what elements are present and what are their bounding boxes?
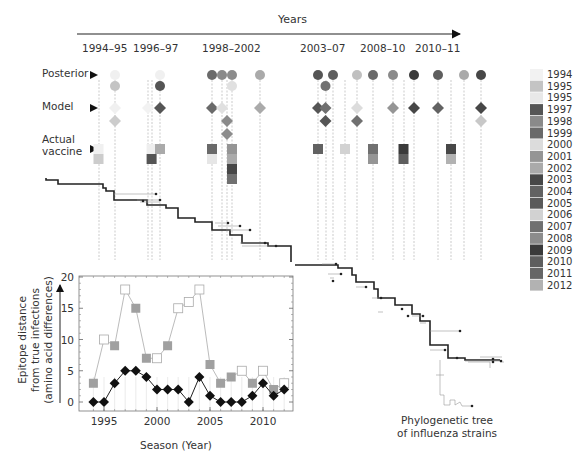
actual-vaccine-marker <box>155 144 165 154</box>
legend-swatch <box>530 256 543 267</box>
legend-label: 2005 <box>547 198 572 209</box>
posterior-marker <box>321 81 331 91</box>
actual-vaccine-marker <box>94 154 104 164</box>
posterior-arrow-icon <box>90 71 98 79</box>
legend-label: 2008 <box>547 233 572 244</box>
posterior-marker <box>352 70 362 80</box>
x-tick-label: 2010 <box>250 415 277 427</box>
y-tick-label: 10 <box>61 334 74 346</box>
actual-vaccine-marker <box>399 144 409 154</box>
period-label: 1998–2002 <box>202 42 261 54</box>
posterior-marker <box>155 81 165 91</box>
legend-label: 2006 <box>547 209 572 220</box>
actual-vaccine-marker <box>147 154 157 164</box>
vaccine-point <box>227 373 236 382</box>
legend-swatch <box>530 116 543 127</box>
legend-label: 2000 <box>547 139 572 150</box>
period-label: 2010–11 <box>415 42 460 54</box>
legend-label: 1999 <box>547 128 572 139</box>
actual-vaccine-marker <box>368 144 378 154</box>
legend-swatch <box>530 245 543 256</box>
vaccine-point <box>142 354 151 363</box>
legend-label: 2011 <box>547 268 572 279</box>
legend-label: 1997 <box>547 104 572 115</box>
model-marker <box>109 115 121 127</box>
posterior-marker <box>227 70 237 80</box>
model-marker <box>320 102 332 114</box>
model-marker <box>254 102 266 114</box>
inset-chart: 051015201995200020052010 Season (Year) E… <box>0 262 295 462</box>
tree-label-line1: Phylogenetic tree <box>401 414 493 426</box>
legend-swatch <box>530 268 543 279</box>
legend-label: 2009 <box>547 245 572 256</box>
legend-label: 1995 <box>547 81 572 92</box>
x-tick-label: 2000 <box>144 415 171 427</box>
actual-vaccine-marker <box>207 154 217 164</box>
posterior-marker <box>409 70 419 80</box>
vaccine-point <box>184 298 193 307</box>
posterior-marker <box>328 70 338 80</box>
posterior-marker <box>368 70 378 80</box>
vaccine-point <box>237 366 246 375</box>
legend-swatch <box>530 139 543 150</box>
legend-swatch <box>530 151 543 162</box>
model-arrow-icon <box>90 104 98 112</box>
ylabel-line: Epitope distance <box>16 296 28 384</box>
vaccine-point <box>259 366 268 375</box>
actual-vaccine-marker <box>94 144 104 154</box>
model-marker <box>216 102 228 114</box>
period-label: 1994–95 <box>82 42 127 54</box>
row-label-model: Model <box>42 100 74 112</box>
actual-vaccine-marker <box>227 144 237 154</box>
period-labels: 1994–95 1996–97 1998–2002 2003–07 2008–1… <box>82 42 460 54</box>
model-marker <box>154 102 166 114</box>
vaccine-point <box>216 379 225 388</box>
actual-vaccine-marker <box>227 164 237 174</box>
legend-label: 1995 <box>547 92 572 103</box>
legend-swatch <box>530 81 543 92</box>
x-tick-label: 1995 <box>91 415 118 427</box>
actual-vaccine-marker <box>207 144 217 154</box>
ylabel-line: from true infections <box>29 288 41 392</box>
legend-swatch <box>530 221 543 232</box>
legend-label: 2001 <box>547 151 572 162</box>
posterior-marker <box>388 70 398 80</box>
vaccine-point <box>131 304 140 313</box>
strain-markers <box>94 70 488 184</box>
vaccine-point <box>248 379 257 388</box>
row-label-actual: Actual <box>42 133 75 145</box>
vaccine-point <box>174 304 183 313</box>
legend-label: 2010 <box>547 256 572 267</box>
y-tick-label: 0 <box>67 396 74 408</box>
year-legend: 1994199519951997199819992000200120022003… <box>530 69 572 291</box>
actual-vaccine-marker <box>313 144 323 154</box>
posterior-marker <box>433 70 443 80</box>
model-marker <box>320 115 332 127</box>
actual-vaccine-marker <box>227 154 237 164</box>
row-label-vaccine: vaccine <box>42 145 82 157</box>
posterior-marker <box>313 70 323 80</box>
vaccine-point <box>206 360 215 369</box>
legend-label: 1994 <box>547 69 572 80</box>
inset-x-axis-label: Season (Year) <box>140 439 212 451</box>
legend-label: 2004 <box>547 186 572 197</box>
years-label: Years <box>277 13 307 26</box>
period-label: 2008–10 <box>360 42 405 54</box>
legend-swatch <box>530 233 543 244</box>
vaccine-point <box>195 285 204 294</box>
actual-vaccine-marker <box>368 154 378 164</box>
x-tick-label: 2005 <box>197 415 224 427</box>
legend-swatch <box>530 198 543 209</box>
posterior-marker <box>110 70 120 80</box>
vaccine-point <box>89 379 98 388</box>
vaccine-point <box>121 285 130 294</box>
tree-label-line2: of influenza strains <box>397 427 497 439</box>
model-marker <box>351 102 363 114</box>
legend-label: 2007 <box>547 221 572 232</box>
legend-swatch <box>530 128 543 139</box>
y-tick-label: 20 <box>61 271 74 283</box>
legend-swatch <box>530 186 543 197</box>
vaccine-point <box>163 341 172 350</box>
model-marker <box>221 115 233 127</box>
row-label-posterior: Posterior <box>42 67 89 79</box>
